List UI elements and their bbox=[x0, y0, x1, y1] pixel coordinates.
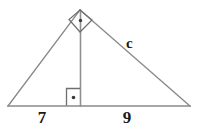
side-label-c: c bbox=[126, 36, 133, 51]
geometry-figure: 7 9 c bbox=[0, 0, 198, 130]
segment-label-right: 9 bbox=[80, 109, 174, 126]
segment-label-left: 7 bbox=[0, 109, 84, 126]
apex-right-angle-dot bbox=[79, 19, 82, 22]
left-leg-line bbox=[8, 10, 80, 106]
foot-right-angle-dot bbox=[72, 96, 76, 100]
foot-right-angle-marker bbox=[67, 89, 81, 106]
right-leg-line bbox=[80, 10, 190, 106]
